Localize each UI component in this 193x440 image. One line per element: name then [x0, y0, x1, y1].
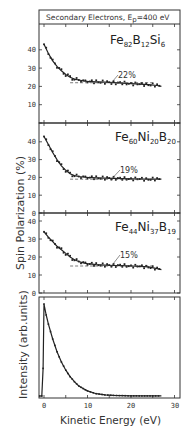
data-point	[102, 80, 104, 82]
data-point	[150, 267, 152, 269]
data-point	[139, 83, 141, 85]
data-point	[136, 395, 138, 397]
data-point	[84, 80, 86, 82]
data-point	[65, 254, 67, 256]
data-point	[158, 85, 160, 87]
data-point	[106, 263, 108, 265]
data-point	[52, 150, 54, 152]
data-point	[50, 57, 52, 59]
data-point	[119, 395, 121, 397]
data-point	[80, 262, 82, 264]
data-point	[69, 75, 71, 77]
data-point	[154, 86, 156, 88]
data-point	[65, 369, 67, 371]
y-tick-label: 20	[28, 83, 36, 91]
data-point	[69, 172, 71, 174]
data-point	[43, 43, 45, 45]
x-axis-label: Kinetic Energy (eV)	[60, 414, 161, 426]
data-point	[143, 85, 145, 87]
data-point	[115, 83, 117, 85]
data-point	[45, 47, 47, 49]
data-point	[148, 267, 150, 269]
data-point	[84, 262, 86, 264]
data-point	[71, 259, 73, 261]
data-point	[54, 243, 56, 245]
data-point	[69, 376, 71, 378]
panel-fe44ni37b19: 010203040 Fe44Ni37B19 15%	[28, 213, 180, 298]
panel-1-annotation: 22%	[118, 71, 136, 80]
data-point	[156, 83, 158, 85]
data-point	[133, 395, 135, 397]
data-point	[80, 81, 82, 83]
panel-3-formula: Fe44Ni37B19	[115, 220, 176, 236]
data-point	[43, 303, 45, 305]
data-point	[78, 261, 80, 263]
data-point	[141, 177, 143, 179]
data-point	[128, 265, 130, 267]
panel-fe82b12si6: Secondary Electrons, Ep=400 eV 10203040 …	[28, 10, 180, 123]
panel-3-ticks: 010203040	[28, 213, 180, 298]
panel-4-ticks	[44, 297, 175, 398]
data-point	[128, 83, 130, 85]
data-point	[93, 265, 95, 267]
data-point	[56, 247, 58, 249]
data-point	[95, 79, 97, 81]
data-point	[48, 144, 50, 146]
data-point	[143, 180, 145, 182]
data-point	[134, 177, 136, 179]
data-point	[48, 323, 50, 325]
data-point	[101, 394, 103, 396]
data-point	[98, 393, 100, 395]
data-point	[54, 63, 56, 65]
y-tick-label: 10	[28, 192, 36, 200]
data-point	[78, 79, 80, 81]
data-point	[58, 67, 60, 69]
data-point	[76, 258, 78, 260]
y-tick-label: 40	[28, 46, 36, 54]
data-point	[150, 85, 152, 87]
data-point	[82, 388, 84, 390]
data-point	[111, 83, 113, 85]
panel-1-data	[43, 43, 161, 87]
data-point	[80, 387, 82, 389]
data-point	[89, 177, 91, 179]
panel-3-data	[43, 231, 161, 271]
data-point	[138, 395, 140, 397]
panel-3-annotation: 15%	[120, 251, 138, 260]
data-point	[121, 83, 123, 85]
data-point	[87, 264, 89, 266]
data-point	[76, 77, 78, 79]
data-point	[65, 171, 67, 173]
data-point	[132, 180, 134, 182]
data-point	[126, 84, 128, 86]
figure: Secondary Electrons, Ep=400 eV 10203040 …	[0, 0, 193, 440]
data-point	[58, 161, 60, 163]
data-point	[143, 267, 145, 269]
data-point	[90, 391, 92, 393]
data-point	[122, 395, 124, 397]
data-point	[58, 356, 60, 358]
data-point	[45, 314, 47, 316]
data-point	[108, 177, 110, 179]
data-point	[41, 395, 43, 397]
data-point	[67, 74, 69, 76]
data-point	[89, 263, 91, 265]
intensity-curve	[40, 304, 162, 396]
data-point	[158, 395, 160, 397]
data-point	[152, 395, 154, 397]
data-point	[149, 395, 151, 397]
data-point	[124, 395, 126, 397]
data-point	[45, 138, 47, 140]
data-point	[80, 177, 82, 179]
data-point	[61, 361, 63, 363]
data-point	[82, 79, 84, 81]
data-point	[106, 80, 108, 82]
y-axis-label-spin-polarization: Spin Polarization (%)	[14, 156, 27, 270]
data-point	[132, 85, 134, 87]
data-point	[152, 177, 154, 179]
data-point	[43, 136, 45, 138]
data-point	[52, 338, 54, 340]
data-point	[39, 395, 41, 397]
data-point	[93, 392, 95, 394]
data-point	[156, 177, 158, 179]
